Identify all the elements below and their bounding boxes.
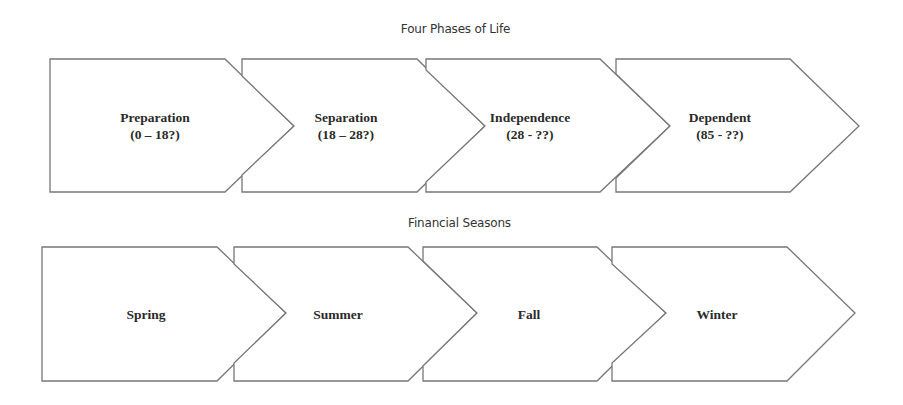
stage-range: (85 - ??) <box>689 126 751 143</box>
chevron-shapes <box>0 0 903 405</box>
stage-summer: Summer <box>313 306 363 323</box>
stage-name: Preparation <box>120 109 190 126</box>
stage-spring: Spring <box>126 306 165 323</box>
stage-fall: Fall <box>518 306 541 323</box>
stage-name: Fall <box>518 306 541 323</box>
stage-range: (18 – 28?) <box>314 126 377 143</box>
stage-winter: Winter <box>697 306 738 323</box>
stage-independence: Independence (28 - ??) <box>490 109 570 143</box>
stage-name: Winter <box>697 306 738 323</box>
stage-name: Independence <box>490 109 570 126</box>
stage-range: (28 - ??) <box>490 126 570 143</box>
stage-name: Spring <box>126 306 165 323</box>
stage-preparation: Preparation (0 – 18?) <box>120 109 190 143</box>
stage-dependent: Dependent (85 - ??) <box>689 109 751 143</box>
stage-name: Summer <box>313 306 363 323</box>
diagram-title-financial-seasons: Financial Seasons <box>8 216 903 230</box>
stage-range: (0 – 18?) <box>120 126 190 143</box>
stage-separation: Separation (18 – 28?) <box>314 109 377 143</box>
stage-name: Separation <box>314 109 377 126</box>
stage-name: Dependent <box>689 109 751 126</box>
